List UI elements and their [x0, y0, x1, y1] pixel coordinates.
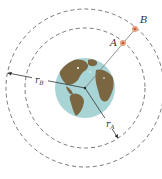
earth-center	[84, 87, 86, 89]
satellite-b	[132, 26, 138, 32]
label-a: A	[109, 37, 117, 48]
label-b: B	[139, 14, 147, 25]
orbital-diagram: A B rB rA	[0, 0, 162, 179]
satellite-a	[120, 40, 126, 46]
